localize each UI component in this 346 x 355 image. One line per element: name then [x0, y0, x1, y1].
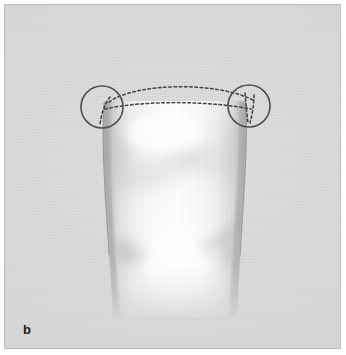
upper-left-shadow [91, 95, 143, 215]
figure-frame: b [4, 4, 341, 349]
central-highlight-core [145, 233, 205, 301]
tooth-structure [91, 93, 261, 325]
upper-band-shadow-2 [103, 161, 187, 193]
panel-label: b [23, 323, 31, 336]
upper-highlight [125, 113, 201, 153]
illustration-svg [5, 5, 341, 349]
figure-panel-b: b [0, 0, 346, 355]
